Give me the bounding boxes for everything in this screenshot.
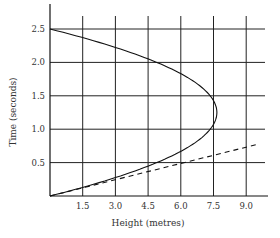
trajectory-line [50, 29, 217, 196]
x-axis-label: Height (metres) [112, 218, 185, 228]
x-tick-label: 9.0 [239, 201, 253, 211]
y-axis-label: Time (seconds) [8, 77, 18, 146]
y-tick-label: 1.5 [31, 91, 45, 101]
chart: 1.53.04.56.07.59.00.51.01.52.02.5 Height… [0, 0, 280, 238]
y-tick-label: 2.0 [31, 57, 45, 67]
x-tick-label: 3.0 [109, 201, 123, 211]
series [50, 29, 259, 196]
y-tick-label: 1.0 [31, 124, 45, 134]
x-tick-label: 7.5 [207, 201, 221, 211]
x-tick-label: 4.5 [141, 201, 155, 211]
x-tick-label: 1.5 [76, 201, 90, 211]
y-tick-label: 0.5 [31, 158, 45, 168]
tick-labels: 1.53.04.56.07.59.00.51.01.52.02.5 [31, 24, 252, 211]
x-tick-label: 6.0 [174, 201, 188, 211]
y-tick-label: 2.5 [31, 24, 45, 34]
